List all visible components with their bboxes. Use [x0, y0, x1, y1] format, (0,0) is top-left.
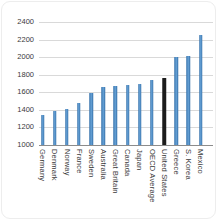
- x-tick-label-sweden: Sweden: [87, 149, 95, 177]
- x-tick-label-germany: Germany: [39, 149, 47, 181]
- x-tick-label-denmark: Denmark: [51, 149, 59, 181]
- y-tick-label: 2200: [10, 36, 34, 44]
- bar-united-states: [162, 78, 166, 145]
- bar-s-korea: [187, 56, 191, 145]
- x-axis-baseline: [39, 145, 213, 146]
- x-tick-label-australia: Australia: [100, 149, 108, 180]
- gridline: [39, 22, 213, 23]
- y-tick-label: 1400: [10, 106, 34, 114]
- x-tick-label-japan: Japan: [136, 149, 144, 170]
- x-tick-label-france: France: [75, 149, 83, 174]
- bar-australia: [102, 87, 106, 145]
- y-tick-label: 2000: [10, 53, 34, 61]
- plot-area: [39, 22, 213, 145]
- y-tick-label: 1800: [10, 71, 34, 79]
- y-tick-label: 1000: [10, 141, 34, 149]
- y-tick-label: 2400: [10, 18, 34, 26]
- x-tick-label-norway: Norway: [63, 149, 71, 176]
- x-tick-label-s-korea: S. Korea: [185, 149, 193, 180]
- bar-japan: [138, 84, 142, 146]
- x-tick-label-great-britain: Great Britain: [112, 149, 120, 194]
- bar-greece: [174, 57, 178, 145]
- bar-germany: [41, 115, 45, 145]
- gridline: [39, 40, 213, 41]
- x-tick-label-greece: Greece: [172, 149, 180, 175]
- x-tick-label-united-states: United States: [160, 149, 168, 197]
- x-tick-label-oecd-average: OECD Average: [148, 149, 156, 203]
- x-tick-label-mexico: Mexico: [197, 149, 205, 174]
- x-tick-label-canada: Canada: [124, 149, 132, 176]
- bar-denmark: [53, 111, 57, 145]
- bar-chart-card: 10001200140016001800200022002400 Germany…: [1, 1, 216, 219]
- bar-mexico: [199, 35, 203, 145]
- bar-france: [77, 103, 81, 145]
- y-tick-label: 1200: [10, 124, 34, 132]
- y-tick-label: 1600: [10, 89, 34, 97]
- bar-oecd-average: [150, 80, 154, 145]
- bar-norway: [65, 109, 69, 145]
- bar-sweden: [89, 93, 93, 145]
- bar-great-britain: [114, 86, 118, 145]
- bar-canada: [126, 85, 130, 145]
